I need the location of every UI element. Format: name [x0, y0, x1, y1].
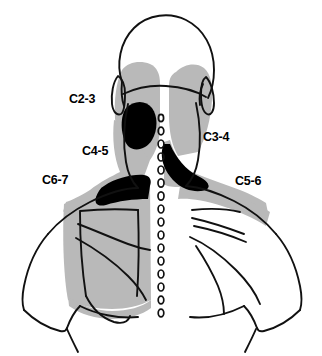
- right-sleeve-hem: [257, 310, 300, 331]
- spinous-process-marker: [158, 179, 164, 187]
- segment-label-c4-5: C4-5: [82, 145, 108, 158]
- spinous-process-marker: [158, 270, 164, 278]
- cervical-pain-referral-figure: C2-3 C4-5 C6-7 C3-4 C5-6: [0, 0, 322, 356]
- spinous-process-marker: [158, 140, 164, 148]
- spinous-process-marker: [158, 231, 164, 239]
- spinous-process-marker: [158, 218, 164, 226]
- segment-label-c6-7: C6-7: [42, 174, 68, 187]
- spinous-process-marker: [158, 192, 164, 200]
- spinous-process-marker: [158, 127, 164, 135]
- spinous-process-marker: [158, 257, 164, 265]
- spinous-process-marker: [158, 244, 164, 252]
- right-armpit-seam: [244, 306, 257, 328]
- spinous-process-marker: [158, 296, 164, 304]
- segment-label-c5-6: C5-6: [235, 175, 261, 188]
- right-torso-side: [245, 329, 256, 352]
- spinous-process-marker: [158, 114, 163, 121]
- left-torso-side: [67, 329, 78, 352]
- spinous-process-column: [158, 114, 164, 317]
- right-shoulder-seam: [190, 237, 260, 304]
- right-scapula-crease-lower: [194, 226, 246, 242]
- segment-label-c3-4: C3-4: [203, 131, 229, 144]
- left-sleeve-outer: [23, 234, 49, 310]
- spinous-process-marker: [158, 309, 164, 317]
- left-sleeve-hem: [24, 310, 67, 331]
- spinous-process-marker: [158, 283, 164, 291]
- right-torso-edge: [190, 306, 244, 317]
- left-armpit-seam: [67, 306, 80, 328]
- segment-label-c2-3: C2-3: [69, 93, 95, 106]
- right-sleeve-outer: [276, 234, 302, 310]
- spinous-process-marker: [158, 166, 164, 174]
- spinous-process-marker: [158, 205, 164, 213]
